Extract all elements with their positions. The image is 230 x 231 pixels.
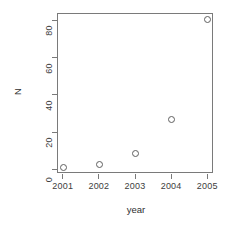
y-axis-tick-label: 60 (45, 57, 54, 79)
x-axis-tick (207, 174, 208, 179)
x-axis-tick-label: 2003 (118, 181, 152, 191)
data-point (96, 161, 103, 168)
x-axis-tick (98, 174, 99, 179)
x-axis-tick-label: 2001 (46, 181, 80, 191)
x-axis-tick-label: 2002 (82, 181, 116, 191)
x-axis-tick-label: 2005 (190, 181, 224, 191)
data-point (204, 16, 211, 23)
y-axis-tick-label: 40 (45, 94, 54, 116)
x-axis-tick-label: 2004 (154, 181, 188, 191)
y-axis-tick-label: 20 (45, 132, 54, 154)
x-axis-tick (171, 174, 172, 179)
y-axis-title: N (12, 88, 23, 95)
x-axis-tick (135, 174, 136, 179)
x-axis-tick (62, 174, 63, 179)
data-point (132, 150, 139, 157)
y-axis-tick-label: 80 (45, 20, 54, 42)
scatter-plot-figure: 020406080 20012002200320042005 N year (0, 0, 230, 231)
x-axis-title: year (0, 204, 230, 215)
